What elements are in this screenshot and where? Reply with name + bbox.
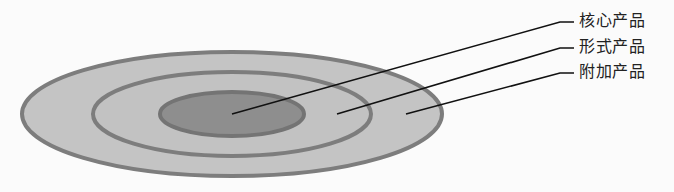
label-core-product: 核心产品 [579, 12, 645, 30]
product-levels-diagram [0, 0, 674, 192]
label-actual-product: 形式产品 [579, 38, 645, 56]
label-augmented-product: 附加产品 [579, 63, 645, 81]
